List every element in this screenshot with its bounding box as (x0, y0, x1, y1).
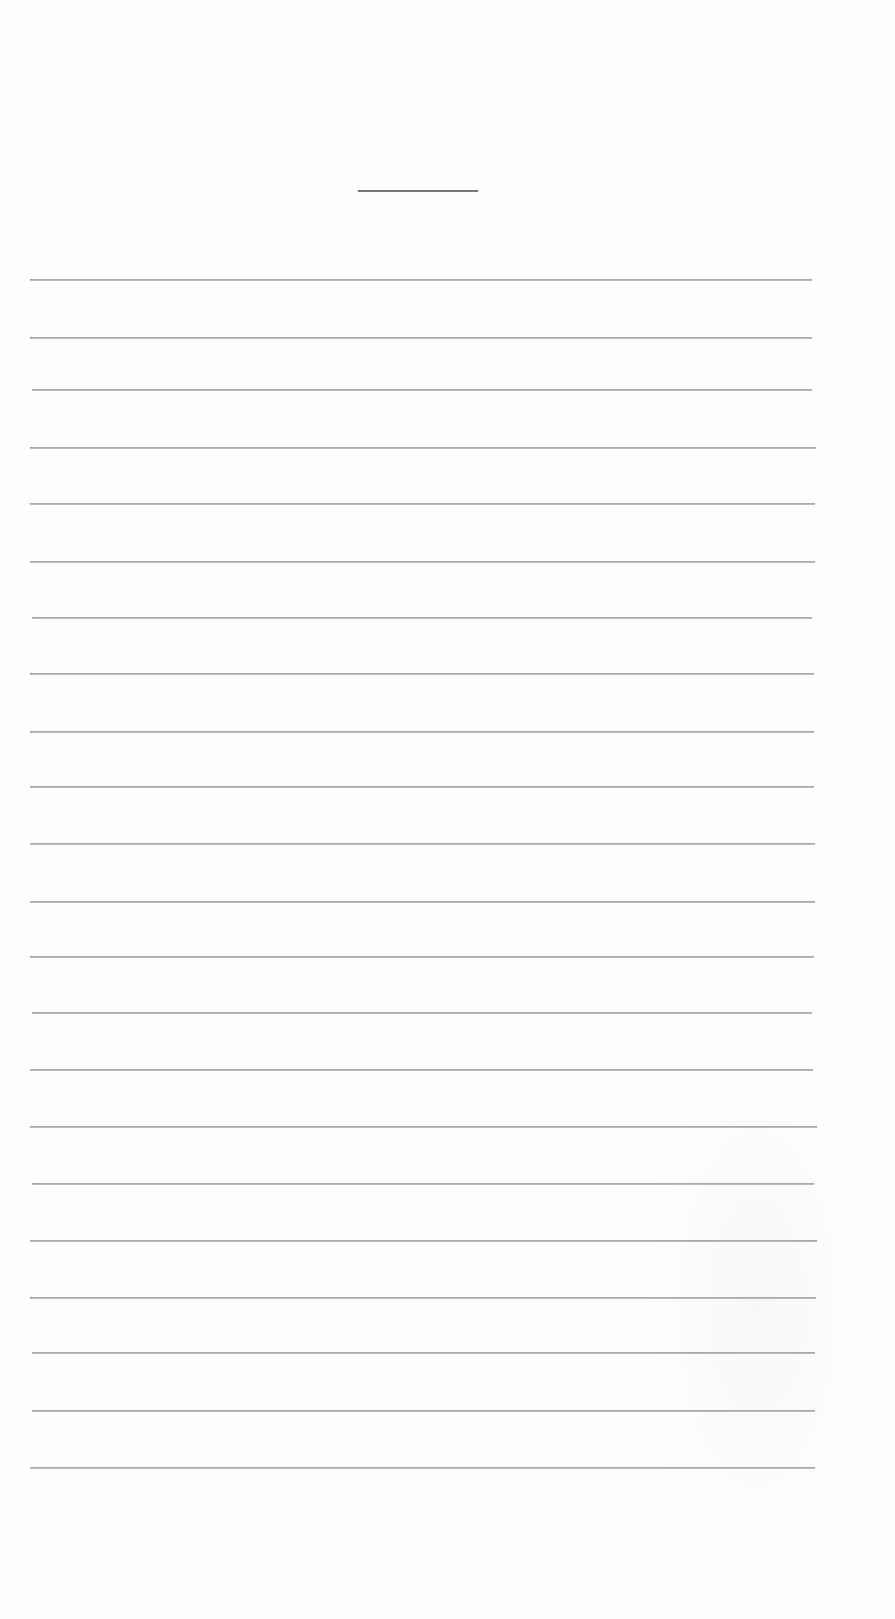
faint-watermark (620, 1100, 895, 1619)
writing-line (30, 901, 815, 903)
writing-line (30, 503, 815, 505)
writing-line (30, 673, 814, 675)
title-rule (358, 190, 478, 192)
writing-line (30, 1069, 813, 1071)
writing-line (32, 1012, 812, 1014)
writing-line (32, 389, 812, 391)
writing-line (30, 731, 814, 733)
writing-line (32, 617, 812, 619)
writing-line (30, 279, 812, 281)
writing-line (30, 561, 815, 563)
writing-line (30, 843, 815, 845)
writing-line (30, 956, 814, 958)
writing-line (30, 337, 812, 339)
lined-paper-page (0, 0, 895, 1619)
writing-line (30, 786, 814, 788)
writing-line (30, 447, 816, 449)
